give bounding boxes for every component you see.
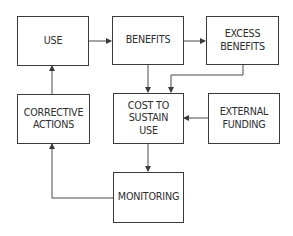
node-excess-benefits: EXCESS BENEFITS	[206, 16, 279, 65]
node-benefits-label: BENEFITS	[126, 34, 171, 47]
node-corrective-actions: CORRECTIVE ACTIONS	[17, 94, 90, 144]
node-monitoring: MONITORING	[113, 172, 184, 223]
node-cost-to-sustain-use: COST TO SUSTAIN USE	[113, 93, 184, 144]
arrow-excess-benefits-to-cost	[171, 64, 243, 92]
node-external-funding-label: EXTERNAL FUNDING	[220, 106, 269, 131]
node-cost-to-sustain-use-label: COST TO SUSTAIN USE	[128, 100, 169, 138]
node-use-label: USE	[44, 35, 63, 48]
node-monitoring-label: MONITORING	[118, 191, 179, 204]
node-benefits: BENEFITS	[112, 16, 184, 65]
node-excess-benefits-label: EXCESS BENEFITS	[220, 28, 265, 53]
node-external-funding: EXTERNAL FUNDING	[208, 93, 280, 144]
node-corrective-actions-label: CORRECTIVE ACTIONS	[24, 107, 84, 132]
node-use: USE	[17, 16, 89, 66]
arrow-monitoring-to-corrective	[52, 144, 113, 198]
